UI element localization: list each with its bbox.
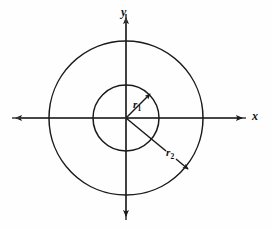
- x-axis-label: x: [252, 110, 258, 122]
- r1-label-base: r: [133, 98, 137, 110]
- r2-label: r2: [166, 147, 174, 158]
- r1-label: r1: [133, 99, 141, 110]
- figure-container: x y r1 r2: [0, 0, 272, 229]
- r2-pointer-arrow: [176, 159, 188, 169]
- r2-label-subscript: 2: [171, 152, 175, 161]
- r2-label-base: r: [166, 146, 170, 158]
- r1-label-subscript: 1: [138, 104, 142, 113]
- concentric-circles-diagram: [0, 0, 272, 229]
- r2-radius-line: [126, 118, 166, 151]
- y-axis-label: y: [121, 6, 126, 18]
